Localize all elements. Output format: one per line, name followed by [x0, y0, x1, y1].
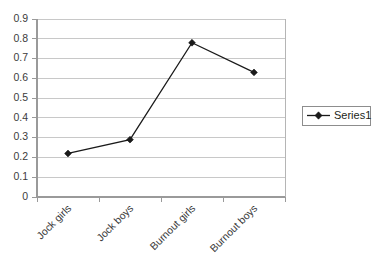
y-tick-label: 0.6: [13, 71, 28, 83]
y-tick-label: 0.2: [13, 150, 28, 162]
legend-label: Series1: [334, 109, 371, 121]
data-point-marker: [189, 39, 196, 46]
y-tick-label: 0: [22, 190, 28, 202]
y-tick-label: 0.7: [13, 51, 28, 63]
x-tick-label: Jock boys: [94, 202, 135, 243]
x-tick-label: Jock girls: [34, 202, 73, 241]
x-tickmarks: [37, 197, 285, 202]
gridlines: [37, 19, 285, 177]
legend: Series1: [302, 106, 371, 125]
x-tick-label: Burnout boys: [207, 202, 259, 254]
x-tick-label: Burnout girls: [147, 202, 197, 252]
y-tickmarks: [32, 19, 37, 197]
y-tick-label: 0.5: [13, 91, 28, 103]
line-chart: 0.9 0.8 0.7 0.6 0.5 0.4 0.3 0.2 0.1 0 Jo…: [0, 0, 380, 270]
chart-canvas: 0.9 0.8 0.7 0.6 0.5 0.4 0.3 0.2 0.1 0 Jo…: [0, 0, 380, 270]
data-point-marker: [251, 69, 258, 76]
y-tick-label: 0.4: [13, 111, 28, 123]
y-tick-label: 0.3: [13, 130, 28, 142]
y-tick-label: 0.9: [13, 12, 28, 24]
y-tick-label: 0.8: [13, 32, 28, 44]
data-point-marker: [65, 150, 72, 157]
y-tick-label: 0.1: [13, 170, 28, 182]
